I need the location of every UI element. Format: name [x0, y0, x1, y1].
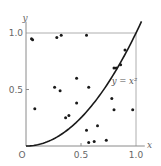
data-point [119, 63, 122, 66]
data-point [67, 114, 70, 117]
data-point [85, 34, 88, 37]
curve-equation-label: y = x² [111, 76, 138, 86]
data-point [87, 86, 90, 89]
unit-square-frame [26, 33, 136, 146]
x-tick-label-0.5: 0.5 [74, 150, 88, 160]
data-point [31, 38, 34, 41]
data-point [53, 86, 56, 89]
data-point [64, 116, 67, 119]
data-point [93, 140, 96, 143]
scatter-chart: O0.51.00.51.0xyy = x² [0, 0, 161, 166]
x-tick-label-1.0: 1.0 [129, 150, 144, 160]
data-point [55, 36, 58, 39]
data-point [33, 107, 36, 110]
data-point [75, 102, 78, 105]
data-point [96, 124, 99, 127]
data-point [113, 108, 116, 111]
y-axis-label: y [21, 13, 28, 23]
axis-labels: O0.51.00.51.0xyy = x² [9, 13, 152, 160]
x-axis-label: x [147, 140, 152, 150]
data-point [85, 129, 88, 132]
data-point [124, 48, 127, 51]
data-points [30, 34, 134, 144]
data-point [115, 67, 118, 70]
data-point [59, 89, 62, 92]
y-tick-label-0.5: 0.5 [9, 85, 23, 95]
data-point [110, 97, 113, 100]
data-point [75, 77, 78, 80]
data-point [60, 34, 63, 37]
y-tick-label-1.0: 1.0 [9, 28, 24, 38]
data-point [131, 108, 134, 111]
data-point [87, 141, 90, 144]
origin-label: O [18, 150, 25, 160]
data-point [105, 139, 108, 142]
